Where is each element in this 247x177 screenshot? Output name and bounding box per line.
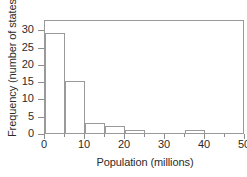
x-axis-tick [224,134,225,137]
x-axis-tick-label: 40 [190,139,218,150]
x-axis-tick-label: 50 [230,139,247,150]
histogram-bar [185,130,205,133]
y-axis-tick-label: 30 [0,24,34,35]
x-axis-tick-label: 0 [30,139,58,150]
histogram-figure: Frequency (number of states) 05101520253… [0,0,247,177]
y-axis-tick-label: 20 [0,59,34,70]
histogram-bar [45,33,65,133]
x-axis-title: Population (millions) [44,156,246,168]
x-axis-tick [184,134,185,137]
plot-area [44,20,244,134]
histogram-bar [85,123,105,133]
y-axis-tick-label: 0 [0,128,34,139]
histogram-bar [125,130,145,133]
x-axis-tick [104,134,105,137]
y-axis-tick-label: 5 [0,111,34,122]
y-axis-tick-label: 15 [0,76,34,87]
y-axis-tick-label: 10 [0,93,34,104]
histogram-bar [105,126,125,133]
x-axis-tick-label: 10 [70,139,98,150]
y-axis-tick-label: 25 [0,42,34,53]
x-axis-tick-label: 20 [110,139,138,150]
x-axis-tick-label: 30 [150,139,178,150]
histogram-bar [65,81,85,133]
x-axis-tick [144,134,145,137]
bars-layer [45,21,243,133]
x-axis-tick [64,134,65,137]
